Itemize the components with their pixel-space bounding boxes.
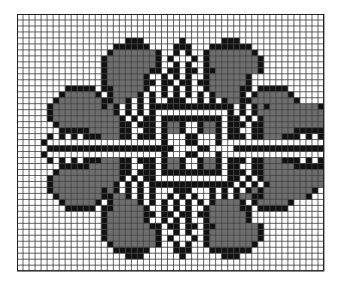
stitch-gray: [300, 116, 306, 122]
stitch-black: [186, 205, 192, 211]
stitch-black: [41, 140, 47, 146]
stitch-gray: [131, 205, 137, 211]
stitch-gray: [77, 122, 83, 128]
stitch-black: [47, 146, 53, 152]
stitch-gray: [288, 187, 294, 193]
stitch-gray: [119, 199, 125, 205]
stitch-gray: [101, 134, 107, 140]
stitch-gray: [252, 229, 258, 235]
stitch-gray: [216, 50, 222, 56]
stitch-gray: [101, 175, 107, 181]
stitch-black: [258, 169, 264, 175]
stitch-gray: [240, 68, 246, 74]
stitch-black: [246, 175, 252, 181]
stitch-black: [149, 211, 155, 217]
stitch-gray: [83, 199, 89, 205]
stitch-gray: [204, 158, 210, 164]
stitch-black: [198, 122, 204, 128]
stitch-black: [288, 158, 294, 164]
stitch-black: [47, 110, 53, 116]
stitch-black: [246, 187, 252, 193]
stitch-gray: [282, 175, 288, 181]
stitch-black: [101, 205, 107, 211]
stitch-black: [204, 86, 210, 92]
stitch-black: [216, 116, 222, 122]
stitch-black: [306, 134, 312, 140]
stitch-gray: [89, 181, 95, 187]
stitch-gray: [119, 217, 125, 223]
stitch-gray: [89, 187, 95, 193]
stitch-gray: [71, 98, 77, 104]
stitch-gray: [101, 158, 107, 164]
stitch-black: [258, 205, 264, 211]
stitch-gray: [71, 175, 77, 181]
stitch-gray: [240, 235, 246, 241]
stitch-gray: [264, 199, 270, 205]
stitch-black: [119, 44, 125, 50]
stitch-black: [204, 241, 210, 247]
stitch-black: [234, 247, 240, 253]
stitch-gray: [234, 80, 240, 86]
stitch-black: [186, 241, 192, 247]
stitch-black: [294, 98, 300, 104]
stitch-black: [204, 181, 210, 187]
stitch-gray: [113, 128, 119, 134]
stitch-gray: [107, 110, 113, 116]
stitch-black: [306, 164, 312, 170]
stitch-black: [137, 110, 143, 116]
stitch-gray: [210, 62, 216, 68]
stitch-gray: [113, 62, 119, 68]
stitch-black: [137, 169, 143, 175]
stitch-gray: [107, 158, 113, 164]
stitch-gray: [107, 235, 113, 241]
stitch-black: [143, 146, 149, 152]
stitch-black: [240, 181, 246, 187]
stitch-gray: [174, 128, 180, 134]
stitch-gray: [71, 199, 77, 205]
stitch-gray: [65, 110, 71, 116]
stitch-black: [155, 56, 161, 62]
stitch-gray: [113, 223, 119, 229]
stitch-black: [306, 158, 312, 164]
stitch-gray: [288, 128, 294, 134]
stitch-black: [65, 128, 71, 134]
stitch-gray: [234, 235, 240, 241]
stitch-gray: [107, 223, 113, 229]
stitch-black: [161, 74, 167, 80]
stitch-gray: [276, 92, 282, 98]
stitch-black: [282, 134, 288, 140]
stitch-gray: [113, 98, 119, 104]
stitch-black: [294, 158, 300, 164]
stitch-black: [95, 199, 101, 205]
stitch-gray: [216, 62, 222, 68]
stitch-gray: [59, 187, 65, 193]
stitch-black: [186, 92, 192, 98]
stitch-gray: [228, 211, 234, 217]
stitch-gray: [131, 80, 137, 86]
stitch-gray: [119, 62, 125, 68]
stitch-black: [143, 175, 149, 181]
stitch-gray: [113, 205, 119, 211]
stitch-black: [312, 164, 318, 170]
stitch-black: [47, 158, 53, 164]
stitch-gray: [282, 187, 288, 193]
stitch-gray: [294, 193, 300, 199]
stitch-black: [246, 116, 252, 122]
stitch-black: [306, 193, 312, 199]
stitch-gray: [65, 104, 71, 110]
stitch-black: [216, 158, 222, 164]
stitch-black: [228, 110, 234, 116]
stitch-black: [107, 86, 113, 92]
stitch-gray: [216, 199, 222, 205]
stitch-black: [131, 247, 137, 253]
stitch-gray: [131, 62, 137, 68]
stitch-black: [59, 158, 65, 164]
stitch-gray: [270, 187, 276, 193]
stitch-gray: [222, 50, 228, 56]
stitch-gray: [252, 235, 258, 241]
stitch-gray: [125, 223, 131, 229]
stitch-black: [252, 158, 258, 164]
stitch-black: [149, 223, 155, 229]
stitch-black: [174, 229, 180, 235]
stitch-black: [228, 158, 234, 164]
